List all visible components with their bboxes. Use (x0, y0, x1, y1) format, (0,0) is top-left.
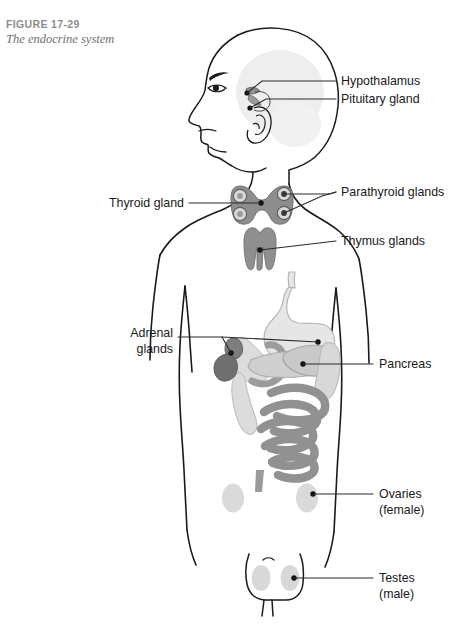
figure-root: FIGURE 17-29 The endocrine system (0, 0, 472, 628)
ovary-right-shape (296, 484, 318, 513)
label-ovaries-line1: Ovaries (379, 487, 422, 501)
ovary-left-shape (222, 484, 244, 513)
testis-left-shape (252, 565, 271, 591)
jaw-chin-detail (210, 147, 226, 152)
penis-outline (262, 600, 273, 616)
hip-left-outline (187, 530, 196, 565)
label-testes-line2: (male) (379, 587, 414, 601)
esophagus-shape (288, 272, 295, 288)
torso-side-right-outline (334, 288, 342, 532)
label-thymus-glands: Thymus glands (341, 234, 425, 248)
arm-right-outline (359, 259, 369, 363)
label-ovaries-line2: (female) (379, 503, 424, 517)
armpit-left-wedge (185, 286, 192, 372)
parathyroid-lower-left-core (237, 211, 243, 217)
small-intestine-group (261, 388, 325, 479)
adrenal-gland-lower (214, 354, 237, 381)
label-pancreas: Pancreas (379, 357, 431, 371)
label-parathyroid-glands: Parathyroid glands (341, 185, 444, 199)
hip-right-outline (325, 532, 334, 567)
pubic-detail (263, 558, 274, 560)
testes-group (246, 554, 303, 616)
rectum-shape (255, 470, 264, 492)
endocrine-system-illustration: Hypothalamus Pituitary gland Thyroid gla… (0, 0, 472, 628)
label-testes-line1: Testes (379, 571, 415, 585)
label-thyroid-gland: Thyroid gland (109, 196, 184, 210)
parathyroid-upper-left-core (237, 193, 243, 199)
leader-adrenal (178, 337, 231, 353)
label-adrenal-glands-line2: glands (136, 342, 173, 356)
torso-side-left-outline (179, 286, 187, 530)
abdominal-organs-group (214, 272, 340, 492)
label-hypothalamus: Hypothalamus (341, 74, 420, 88)
ovaries-group (222, 484, 318, 513)
label-adrenal-glands-line1: Adrenal (130, 326, 173, 340)
thyroid-group (231, 186, 293, 224)
eyebrow-icon (209, 72, 229, 81)
label-pituitary-gland: Pituitary gland (341, 92, 420, 106)
pupil-icon (213, 85, 219, 91)
